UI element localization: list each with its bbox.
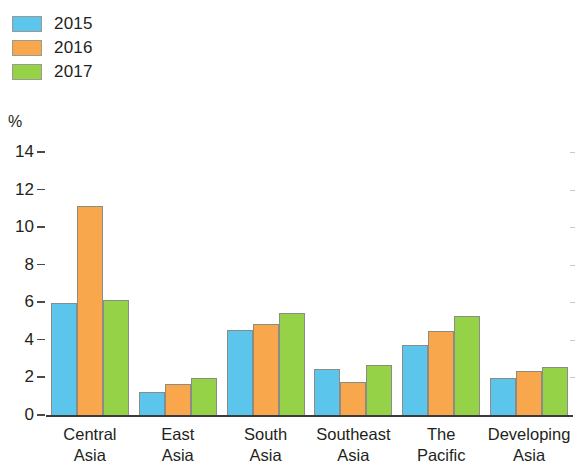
plot-area bbox=[46, 148, 571, 416]
bar-east-asia-2017[interactable] bbox=[191, 378, 217, 416]
y-axis-tick-label-0: 0 bbox=[8, 405, 34, 425]
bar-east-asia-2015[interactable] bbox=[139, 392, 165, 416]
bar-group-east-asia bbox=[139, 148, 217, 416]
legend-swatch-icon-2016 bbox=[12, 40, 42, 56]
legend-label: 2017 bbox=[54, 62, 93, 82]
category-label-east-asia: EastAsia bbox=[128, 424, 228, 466]
bar-central-asia-2017[interactable] bbox=[103, 300, 129, 416]
category-label-the-pacific: ThePacific bbox=[391, 424, 491, 466]
bar-group-developing-asia bbox=[490, 148, 568, 416]
category-label-line: Asia bbox=[216, 445, 316, 466]
y-axis-tick-mark-2 bbox=[37, 376, 45, 378]
category-label-southeast-asia: SoutheastAsia bbox=[304, 424, 404, 466]
bar-group-south-asia bbox=[227, 148, 305, 416]
y-axis-tick-label-4: 4 bbox=[8, 330, 34, 350]
y-axis-tick-mark-14 bbox=[37, 151, 45, 153]
y-axis-tick-mark-10 bbox=[37, 226, 45, 228]
bar-the-pacific-2015[interactable] bbox=[402, 345, 428, 416]
bar-developing-asia-2017[interactable] bbox=[542, 367, 568, 416]
bar-south-asia-2015[interactable] bbox=[227, 330, 253, 416]
category-label-line: Asia bbox=[40, 445, 140, 466]
category-label-line: Asia bbox=[128, 445, 228, 466]
bar-chart: 201520162017 % 02468101214 CentralAsiaEa… bbox=[0, 0, 577, 468]
category-label-line: Developing bbox=[479, 424, 577, 445]
category-label-developing-asia: DevelopingAsia bbox=[479, 424, 577, 466]
y-axis-tick-mark-4 bbox=[37, 339, 45, 341]
category-label-line: East bbox=[128, 424, 228, 445]
bar-developing-asia-2015[interactable] bbox=[490, 378, 516, 416]
y-axis-unit-label: % bbox=[8, 113, 22, 131]
y-axis-tick-label-8: 8 bbox=[8, 255, 34, 275]
legend-label: 2015 bbox=[54, 14, 93, 34]
bar-the-pacific-2017[interactable] bbox=[454, 316, 480, 416]
y-axis-tick-label-14: 14 bbox=[8, 142, 34, 162]
bar-group-southeast-asia bbox=[314, 148, 392, 416]
y-axis-tick-mark-6 bbox=[37, 301, 45, 303]
legend-swatch-icon-2015 bbox=[12, 16, 42, 32]
y-axis-tick-label-2: 2 bbox=[8, 367, 34, 387]
legend-item-2017[interactable]: 2017 bbox=[12, 60, 162, 84]
bar-east-asia-2016[interactable] bbox=[165, 384, 191, 416]
bar-central-asia-2016[interactable] bbox=[77, 206, 103, 416]
y-axis-tick-mark-8 bbox=[37, 264, 45, 266]
bar-developing-asia-2016[interactable] bbox=[516, 371, 542, 416]
legend-swatch-icon-2017 bbox=[12, 64, 42, 80]
y-axis-tick-label-6: 6 bbox=[8, 292, 34, 312]
chart-legend: 201520162017 bbox=[12, 12, 162, 84]
legend-item-2016[interactable]: 2016 bbox=[12, 36, 162, 60]
y-axis-tick-label-10: 10 bbox=[8, 217, 34, 237]
bar-group-the-pacific bbox=[402, 148, 480, 416]
bar-southeast-asia-2016[interactable] bbox=[340, 382, 366, 416]
category-label-line: Southeast bbox=[304, 424, 404, 445]
category-label-south-asia: SouthAsia bbox=[216, 424, 316, 466]
y-axis-tick-mark-12 bbox=[37, 189, 45, 191]
category-label-central-asia: CentralAsia bbox=[40, 424, 140, 466]
category-label-line: Central bbox=[40, 424, 140, 445]
bar-south-asia-2017[interactable] bbox=[279, 313, 305, 416]
category-label-line: South bbox=[216, 424, 316, 445]
category-label-line: Pacific bbox=[391, 445, 491, 466]
legend-item-2015[interactable]: 2015 bbox=[12, 12, 162, 36]
bar-central-asia-2015[interactable] bbox=[51, 303, 77, 416]
legend-label: 2016 bbox=[54, 38, 93, 58]
y-axis-tick-mark-0 bbox=[37, 414, 45, 416]
category-label-line: Asia bbox=[304, 445, 404, 466]
bar-southeast-asia-2017[interactable] bbox=[366, 365, 392, 416]
bar-south-asia-2016[interactable] bbox=[253, 324, 279, 416]
bar-group-central-asia bbox=[51, 148, 129, 416]
x-axis-baseline bbox=[46, 415, 573, 417]
category-label-line: The bbox=[391, 424, 491, 445]
y-axis-tick-label-12: 12 bbox=[8, 180, 34, 200]
category-label-line: Asia bbox=[479, 445, 577, 466]
bar-the-pacific-2016[interactable] bbox=[428, 331, 454, 416]
bar-southeast-asia-2015[interactable] bbox=[314, 369, 340, 416]
